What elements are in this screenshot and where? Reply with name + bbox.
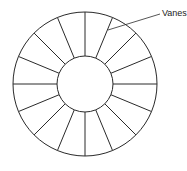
vane [96,110,113,151]
vane [57,17,74,58]
vane [18,56,59,73]
vane [111,95,152,112]
vane [57,110,74,151]
vanes-label: Vanes [162,9,187,18]
inner-hub [57,56,113,112]
vane [111,56,152,73]
vane [34,33,65,64]
vane [18,95,59,112]
vane [105,33,136,64]
vane-ring-diagram [0,0,187,171]
vane [34,104,65,135]
vane [105,104,136,135]
vanes-leader-line [108,14,160,30]
vane [96,17,113,58]
